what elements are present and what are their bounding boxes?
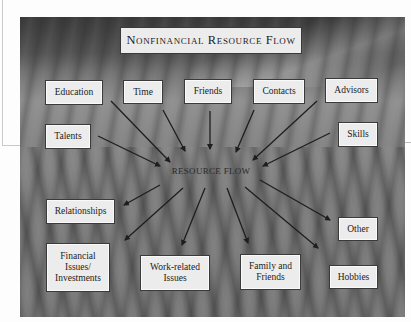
node-hobbies: Hobbies bbox=[329, 265, 378, 289]
page-border-line bbox=[2, 0, 3, 146]
node-work-related-issues: Work-related Issues bbox=[140, 255, 210, 291]
diagram-title: Nonfinancial Resource Flow bbox=[120, 27, 302, 54]
node-time: Time bbox=[123, 80, 163, 104]
node-friends: Friends bbox=[184, 79, 232, 104]
center-label-resource-flow: RESOURCE FLOW bbox=[166, 166, 256, 176]
page-border-line bbox=[404, 142, 411, 143]
node-financial-issues-investments: Financial Issues/ Investments bbox=[46, 243, 110, 292]
node-contacts: Contacts bbox=[253, 79, 305, 104]
node-advisors: Advisors bbox=[325, 78, 378, 103]
node-skills: Skills bbox=[338, 122, 378, 147]
page-border-line bbox=[2, 145, 22, 146]
node-talents: Talents bbox=[45, 124, 91, 149]
node-family-and-friends: Family and Friends bbox=[240, 254, 301, 290]
node-education: Education bbox=[45, 80, 103, 105]
node-other: Other bbox=[338, 217, 378, 241]
node-relationships: Relationships bbox=[46, 199, 115, 224]
